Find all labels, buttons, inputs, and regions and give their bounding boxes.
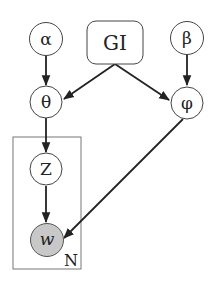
node-z: Z — [30, 153, 62, 185]
edge-gi-theta — [64, 64, 115, 99]
node-gi-label: GI — [103, 31, 127, 55]
node-phi-label: φ — [181, 93, 193, 113]
node-alpha-label: α — [40, 29, 52, 49]
node-phi: φ — [171, 87, 203, 119]
node-z-label: Z — [40, 159, 52, 179]
node-theta-label: θ — [41, 92, 51, 112]
node-alpha: α — [30, 23, 63, 56]
graphical-model-diagram: N α GI β θ φ Z w — [0, 0, 217, 282]
plate-label: N — [64, 251, 78, 270]
node-theta: θ — [30, 86, 62, 118]
node-w-label: w — [40, 229, 55, 249]
node-w-observed: w — [31, 224, 64, 257]
edge-gi-phi — [115, 64, 169, 100]
node-beta-label: β — [182, 28, 192, 48]
edge-phi-w — [64, 119, 183, 238]
node-beta: β — [171, 22, 204, 55]
node-gi: GI — [87, 21, 143, 64]
